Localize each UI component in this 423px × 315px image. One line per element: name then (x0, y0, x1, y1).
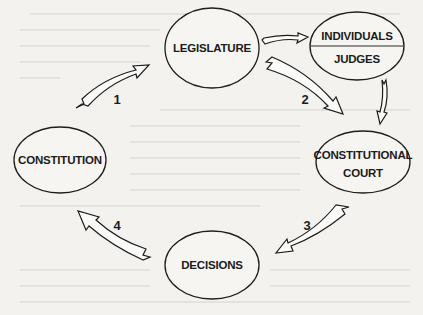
court-label: COURT (343, 167, 383, 179)
node-individuals-judges: INDIVIDUALS JUDGES (310, 12, 404, 80)
step-label-3: 3 (303, 218, 310, 233)
judges-label: JUDGES (334, 53, 381, 65)
node-legislature: LEGISLATURE (165, 8, 259, 88)
hollow-arrow-icon (276, 205, 349, 253)
legislature-label: LEGISLATURE (173, 42, 252, 54)
arrow-1-constitution-to-legislature: 1 (76, 65, 149, 108)
node-constitutional-court: CONSTITUTIONAL COURT (314, 131, 413, 193)
step-label-4: 4 (113, 218, 121, 233)
arrow-4-decisions-to-constitution: 4 (78, 211, 150, 260)
decisions-label: DECISIONS (181, 259, 243, 271)
arrow-3-court-to-decisions: 3 (276, 205, 349, 253)
node-decisions: DECISIONS (165, 231, 259, 299)
constitutional-court-ellipse (316, 131, 410, 193)
individuals-label: INDIVIDUALS (321, 30, 393, 42)
arrow-individuals-to-court (377, 80, 387, 124)
constitutional-label: CONSTITUTIONAL (314, 149, 413, 161)
constitutional-review-cycle-diagram: LEGISLATURE INDIVIDUALS JUDGES CONSTITUT… (0, 0, 423, 315)
hollow-arrow-icon (262, 33, 308, 44)
node-constitution: CONSTITUTION (14, 127, 106, 193)
step-label-2: 2 (301, 92, 308, 107)
arrow-legislature-to-individuals (262, 33, 308, 44)
hollow-arrow-icon (377, 80, 387, 124)
constitution-label: CONSTITUTION (18, 154, 102, 166)
step-label-1: 1 (113, 92, 120, 107)
